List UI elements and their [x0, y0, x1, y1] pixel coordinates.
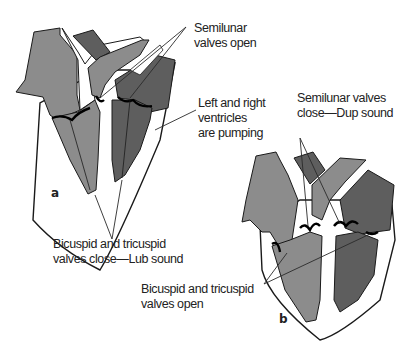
- label-semilunar-open: Semilunar valves open: [194, 21, 256, 51]
- label-line: are pumping: [198, 126, 265, 141]
- label-ventricles-pumping: Left and right ventricles are pumping: [198, 96, 265, 141]
- label-line: valves close—Lub sound: [53, 252, 183, 267]
- label-line: Semilunar: [194, 21, 256, 36]
- label-av-open: Bicuspid and tricuspid valves open: [141, 282, 254, 312]
- heart-b: [242, 152, 395, 340]
- panel-letter-a: a: [51, 186, 59, 200]
- label-semilunar-close: Semilunar valves close—Dup sound: [297, 91, 393, 121]
- label-line: close—Dup sound: [297, 106, 393, 121]
- label-av-close-lub: Bicuspid and tricuspid valves close—Lub …: [53, 237, 183, 267]
- heart-a: [16, 28, 175, 270]
- label-line: Semilunar valves: [297, 91, 393, 106]
- label-line: valves open: [141, 297, 254, 312]
- label-line: Left and right: [198, 96, 265, 111]
- label-line: Bicuspid and tricuspid: [53, 237, 183, 252]
- label-line: valves open: [194, 36, 256, 51]
- panel-letter-b: b: [279, 312, 288, 326]
- label-line: ventricles: [198, 111, 265, 126]
- label-line: Bicuspid and tricuspid: [141, 282, 254, 297]
